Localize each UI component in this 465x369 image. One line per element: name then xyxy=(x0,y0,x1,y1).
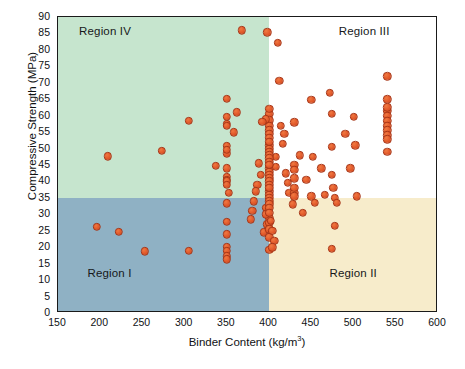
x-axis-tick-label: 400 xyxy=(248,316,288,328)
x-axis-tick-label: 600 xyxy=(417,316,457,328)
x-axis-title: Binder Content (kg/m3) xyxy=(57,334,437,348)
x-axis-tick-label: 500 xyxy=(333,316,373,328)
region-i-background xyxy=(58,198,269,312)
x-axis-tick-label: 350 xyxy=(206,316,246,328)
region-ii-label: Region II xyxy=(330,267,377,279)
y-axis-title: Compressive Strength (MPa) xyxy=(26,21,38,231)
x-axis-title-tail: ) xyxy=(302,336,306,348)
x-axis-tick-label: 300 xyxy=(164,316,204,328)
y-axis-tick-label: 15 xyxy=(20,257,50,269)
y-axis-tick-label: 10 xyxy=(20,273,50,285)
plot-area: Region IVRegion IIIRegion IRegion II xyxy=(57,16,437,312)
x-axis-tick-label: 150 xyxy=(37,316,77,328)
x-axis-title-base: Binder Content (kg/m xyxy=(189,336,298,348)
scatter-chart-figure: Region IVRegion IIIRegion IRegion II 051… xyxy=(0,0,465,369)
y-axis-tick-label: 20 xyxy=(20,240,50,252)
region-i-label: Region I xyxy=(88,267,132,279)
x-axis-tick-label: 550 xyxy=(375,316,415,328)
x-axis-tick xyxy=(0,63,1,68)
x-axis-tick-label: 250 xyxy=(121,316,161,328)
y-axis-tick-label: 5 xyxy=(20,290,50,302)
x-axis-tick-label: 200 xyxy=(79,316,119,328)
region-iv-label: Region IV xyxy=(79,25,131,37)
region-ii-background xyxy=(269,198,437,312)
x-axis-tick-label: 450 xyxy=(290,316,330,328)
region-iii-label: Region III xyxy=(339,25,390,37)
